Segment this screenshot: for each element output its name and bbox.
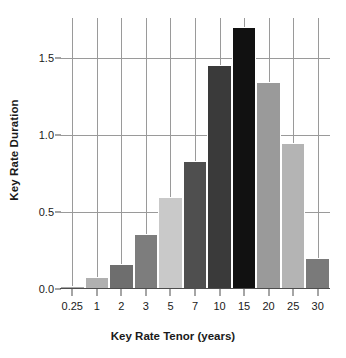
bar-30 — [305, 258, 330, 289]
x-tick-mark-15 — [244, 289, 245, 296]
y-axis-ticks: 0.00.51.01.5 — [24, 0, 54, 358]
x-tick-mark-20 — [268, 289, 269, 296]
bar-25 — [281, 143, 306, 289]
x-tick-mark-25 — [293, 289, 294, 296]
bar-series — [60, 18, 330, 289]
y-tick-label-0.5: 0.5 — [26, 206, 54, 217]
x-tick-mark-1 — [96, 289, 97, 296]
x-tick-label-10: 10 — [213, 301, 225, 312]
x-tick-label-30: 30 — [312, 301, 324, 312]
x-tick-label-5: 5 — [167, 301, 173, 312]
x-tick-mark-2 — [121, 289, 122, 296]
x-tick-label-0.25: 0.25 — [62, 301, 83, 312]
x-tick-mark-3 — [145, 289, 146, 296]
x-tick-label-15: 15 — [238, 301, 250, 312]
x-tick-mark-7 — [195, 289, 196, 296]
y-tick-label-1.5: 1.5 — [26, 52, 54, 63]
x-axis: 0.25123571015202530 — [60, 289, 330, 329]
bar-3 — [134, 234, 159, 289]
bar-15 — [232, 27, 257, 289]
x-tick-label-7: 7 — [192, 301, 198, 312]
x-tick-label-25: 25 — [287, 301, 299, 312]
x-tick-label-1: 1 — [94, 301, 100, 312]
plot-area — [60, 18, 330, 289]
x-tick-mark-0.25 — [72, 289, 73, 296]
y-tick-label-0.0: 0.0 — [26, 284, 54, 295]
x-tick-label-20: 20 — [263, 301, 275, 312]
y-tick-label-1.0: 1.0 — [26, 129, 54, 140]
bar-5 — [158, 197, 183, 289]
bar-2 — [109, 264, 134, 289]
bar-10 — [207, 65, 232, 289]
x-axis-title: Key Rate Tenor (years) — [0, 330, 346, 342]
x-tick-mark-10 — [219, 289, 220, 296]
bar-20 — [256, 82, 281, 289]
y-axis-title-text: Key Rate Duration — [8, 99, 20, 200]
x-tick-label-2: 2 — [118, 301, 124, 312]
x-tick-mark-5 — [170, 289, 171, 296]
x-tick-mark-30 — [317, 289, 318, 296]
bar-chart: Key Rate Duration 0.00.51.01.5 0.2512357… — [0, 0, 346, 358]
x-tick-label-3: 3 — [143, 301, 149, 312]
bar-7 — [183, 161, 208, 289]
